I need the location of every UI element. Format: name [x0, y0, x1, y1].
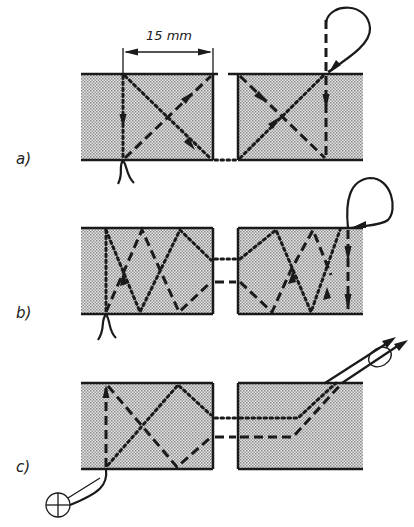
panel-label-a: a) [16, 150, 31, 168]
panel-b: b) [16, 178, 393, 340]
fabric-right-c [238, 383, 363, 469]
panel-c: c) [16, 337, 408, 517]
fabric-left-c [81, 383, 213, 469]
fabric-right-b [238, 228, 363, 314]
dimension-label: 15 mm [146, 28, 192, 43]
stitch-diagram: 15 mm a) [0, 0, 414, 527]
panel-a: 15 mm a) [16, 8, 370, 184]
panel-label-b: b) [16, 304, 31, 322]
panel-label-c: c) [16, 458, 30, 476]
dimension-15mm: 15 mm [123, 28, 213, 74]
fabric-right-a [238, 74, 363, 160]
